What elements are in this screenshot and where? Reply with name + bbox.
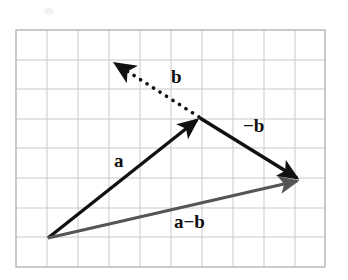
vector-diagram-page: b −b a a−b [0,0,348,280]
vector-diagram-canvas [0,0,348,280]
vector-label-a-minus-b: a−b [174,212,205,231]
vector-label-a: a [114,151,124,170]
vector-label-b: b [171,67,182,86]
vector-label-minus-b: −b [243,116,264,135]
